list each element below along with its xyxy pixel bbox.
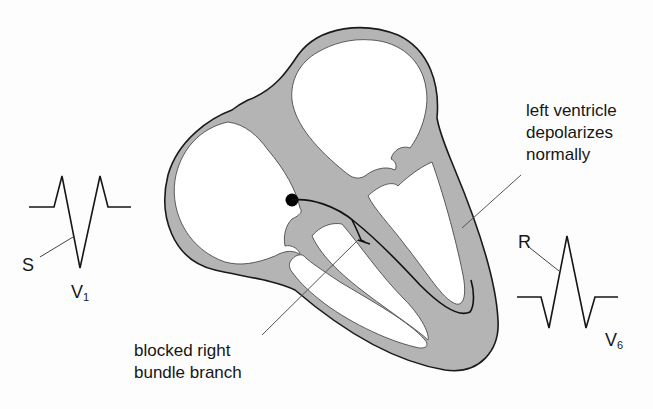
blocked-branch-label-line1: blocked right: [134, 340, 242, 362]
lead-v1-label: V1: [71, 282, 89, 303]
lead-v1-subscript: 1: [83, 291, 89, 303]
left-ventricle-label-line1: left ventricle: [526, 100, 617, 122]
lead-v6-name: V: [605, 330, 617, 350]
heart-diagram: [0, 0, 653, 409]
s-wave-label: S: [22, 255, 34, 276]
leader-line-left-ventricle: [462, 175, 521, 228]
r-wave-label: R: [518, 232, 531, 253]
left-ventricle-label-line3: normally: [526, 144, 617, 166]
ecg-v1: [29, 176, 131, 268]
ecg-v1-s-pointer: [40, 237, 73, 257]
blocked-branch-label-line2: bundle branch: [134, 362, 242, 384]
left-ventricle-label: left ventricle depolarizes normally: [526, 100, 617, 166]
lead-v1-name: V: [71, 282, 83, 302]
left-ventricle-label-line2: depolarizes: [526, 122, 617, 144]
lead-v6-subscript: 6: [617, 339, 623, 351]
heart: [165, 28, 498, 371]
lead-v6-label: V6: [605, 330, 623, 351]
diagram-canvas: left ventricle depolarizes normally bloc…: [0, 0, 653, 409]
blocked-branch-label: blocked right bundle branch: [134, 340, 242, 384]
ecg-v6-r-pointer: [530, 248, 559, 271]
ecg-v6: [517, 236, 618, 328]
